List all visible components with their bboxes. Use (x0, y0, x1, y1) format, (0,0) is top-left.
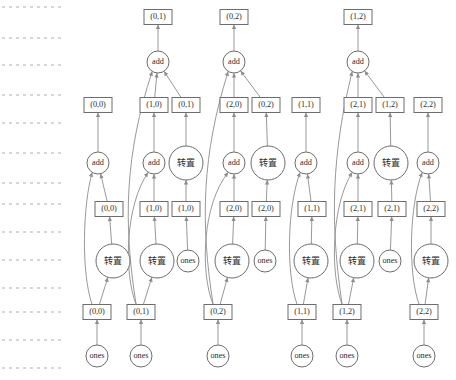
node-label: (1,1) (298, 100, 314, 109)
node-label: (2,2) (423, 204, 439, 213)
tensor-node-b_1_0_m[interactable]: (1,0) (140, 98, 168, 113)
graph-edge (143, 277, 152, 304)
graph-edge (388, 113, 392, 147)
ones-op-node-ones_f2[interactable]: ones (130, 345, 152, 367)
graph-edge (425, 278, 430, 305)
graph-edge (304, 113, 308, 153)
tensor-node-b_1_2_m[interactable]: (1,2) (376, 98, 404, 113)
node-label: 转置 (382, 157, 400, 168)
ones-op-node-ones_f3[interactable]: ones (207, 345, 229, 367)
transpose-op-node-tr_m1[interactable]: 转置 (169, 146, 203, 180)
ones-op-node-ones_f4[interactable]: ones (291, 345, 313, 367)
graph-edge (310, 217, 314, 245)
node-label: 转置 (104, 255, 122, 266)
node-label: add (300, 158, 312, 167)
tensor-node-b_1_2_top[interactable]: (1,2) (344, 10, 372, 25)
node-label: 转置 (348, 255, 366, 266)
tensor-node-b_0_1_m[interactable]: (0,1) (172, 98, 200, 113)
add-op-node-add_m5[interactable]: add (347, 152, 369, 174)
add-op-node-add_m3[interactable]: add (223, 152, 245, 174)
graph-edge (348, 278, 354, 305)
graph-edge (303, 278, 309, 305)
graph-edge (429, 217, 433, 245)
graph-edge (264, 113, 268, 147)
node-label: (2,1) (384, 204, 400, 213)
node-label: add (148, 158, 160, 167)
add-op-node-add_t3[interactable]: add (347, 51, 369, 73)
transpose-op-node-tr_b1[interactable]: 转置 (96, 244, 130, 278)
ones-op-node-ones_b3[interactable]: ones (379, 250, 401, 272)
tensor-node-b_1_1_l[interactable]: (1,1) (298, 202, 326, 217)
transpose-op-node-tr_b4[interactable]: 转置 (294, 244, 328, 278)
ones-op-node-ones_f5[interactable]: ones (336, 345, 358, 367)
graph-edge (164, 71, 181, 97)
ones-op-node-ones_b1[interactable]: ones (177, 250, 199, 272)
tensor-node-b_2_0_m[interactable]: (2,0) (220, 98, 248, 113)
tensor-node-b_0_1_f[interactable]: (0,1) (127, 305, 155, 320)
add-op-node-add_m6[interactable]: add (417, 152, 439, 174)
ones-op-node-ones_f1[interactable]: ones (86, 345, 108, 367)
transpose-op-node-tr_b3[interactable]: 转置 (215, 244, 249, 278)
tensor-node-b_0_2_f[interactable]: (0,2) (204, 305, 232, 320)
graph-edge (426, 113, 430, 153)
graph-edge (241, 71, 261, 98)
tensor-node-b_1_0_l[interactable]: (1,0) (140, 202, 168, 217)
graph-edge (108, 217, 112, 245)
node-label: add (352, 57, 364, 66)
tensor-node-b_0_0_l[interactable]: (0,0) (95, 202, 123, 217)
node-label: ones (210, 351, 225, 360)
graph-edge (205, 172, 228, 304)
add-op-node-add_m1[interactable]: add (87, 152, 109, 174)
tensor-node-b_2_2_f[interactable]: (2,2) (410, 305, 438, 320)
node-label: add (152, 57, 164, 66)
transpose-op-node-tr_b2[interactable]: 转置 (140, 244, 174, 278)
node-label: (0,2) (210, 307, 226, 316)
tensor-node-b_1_0_l2[interactable]: (1,0) (172, 202, 200, 217)
tensor-node-b_1_2_f[interactable]: (1,2) (333, 305, 361, 320)
node-label: (2,2) (416, 307, 432, 316)
tensor-node-b_2_1_l2[interactable]: (2,1) (378, 202, 406, 217)
graph-edge (184, 217, 188, 251)
graph-edge (154, 73, 158, 98)
tensor-node-b_2_1_l[interactable]: (2,1) (344, 202, 372, 217)
transpose-op-node-tr_b6[interactable]: 转置 (414, 244, 448, 278)
graph-edge (365, 71, 385, 98)
tensor-node-b_0_2_top[interactable]: (0,2) (220, 10, 248, 25)
node-label: (1,2) (350, 12, 366, 21)
transpose-op-node-tr_b5[interactable]: 转置 (340, 244, 374, 278)
tensor-node-b_2_0_l[interactable]: (2,0) (220, 202, 248, 217)
graph-edge (100, 174, 108, 202)
add-op-node-add_m2[interactable]: add (143, 152, 165, 174)
transpose-op-node-tr_m3[interactable]: 转置 (374, 146, 408, 180)
graph-edge (184, 113, 188, 147)
rank-guides-layer (2, 7, 62, 368)
graph-edge (422, 320, 426, 346)
tensor-node-b_0_2_m[interactable]: (0,2) (252, 98, 280, 113)
tensor-node-b_2_2_l[interactable]: (2,2) (417, 202, 445, 217)
tensor-node-b_0_0_m[interactable]: (0,0) (84, 98, 112, 113)
graph-edge (334, 172, 352, 304)
node-label: ones (180, 256, 195, 265)
node-label: (1,0) (178, 204, 194, 213)
node-label: (2,1) (350, 204, 366, 213)
tensor-node-b_2_2_m[interactable]: (2,2) (414, 98, 442, 113)
node-label: (1,0) (146, 204, 162, 213)
add-op-node-add_m4[interactable]: add (295, 152, 317, 174)
tensor-node-b_0_1_top[interactable]: (0,1) (144, 10, 172, 25)
tensor-node-b_2_0_l2[interactable]: (2,0) (252, 202, 280, 217)
graph-edge (128, 172, 148, 304)
tensor-node-b_1_1_f[interactable]: (1,1) (288, 305, 316, 320)
node-label: ones (89, 351, 104, 360)
ones-op-node-ones_b2[interactable]: ones (254, 250, 276, 272)
graph-edge (95, 320, 99, 346)
add-op-node-add_t1[interactable]: add (147, 51, 169, 73)
transpose-op-node-tr_m2[interactable]: 转置 (251, 146, 285, 180)
tensor-node-b_0_0_f[interactable]: (0,0) (83, 305, 111, 320)
ones-op-node-ones_f6[interactable]: ones (413, 345, 435, 367)
tensor-node-b_1_1_m[interactable]: (1,1) (292, 98, 320, 113)
graph-edge (345, 320, 349, 346)
add-op-node-add_t2[interactable]: add (223, 51, 245, 73)
graph-edge (265, 180, 269, 202)
tensor-node-b_2_1_m[interactable]: (2,1) (344, 98, 372, 113)
node-label: 转置 (302, 255, 320, 266)
